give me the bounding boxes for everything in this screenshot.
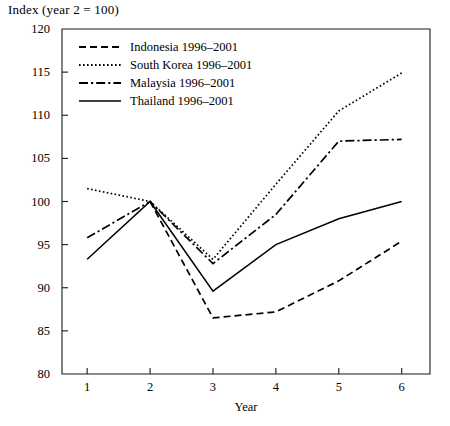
x-axis-tick-label: 5 xyxy=(326,380,352,395)
y-axis-tick-label: 95 xyxy=(16,237,50,252)
legend-label: Malaysia 1996–2001 xyxy=(130,76,235,91)
y-axis-tick-label: 105 xyxy=(16,151,50,166)
legend-item: Thailand 1996–2001 xyxy=(78,92,252,110)
series-line-2 xyxy=(87,139,402,263)
series-line-0 xyxy=(150,202,402,318)
x-axis-tick-label: 3 xyxy=(200,380,226,395)
legend-line-swatch-2 xyxy=(78,77,122,89)
y-axis-tick-label: 115 xyxy=(16,65,50,80)
legend-label: South Korea 1996–2001 xyxy=(130,58,252,73)
y-axis-tick-label: 80 xyxy=(16,367,50,382)
series-line-3 xyxy=(87,202,402,292)
y-axis-tick-label: 100 xyxy=(16,194,50,209)
y-axis-tick-label: 85 xyxy=(16,323,50,338)
legend-label: Thailand 1996–2001 xyxy=(130,94,234,109)
legend-item: Malaysia 1996–2001 xyxy=(78,74,252,92)
chart-legend: Indonesia 1996–2001South Korea 1996–2001… xyxy=(78,38,252,110)
y-axis-tick-label: 110 xyxy=(16,108,50,123)
legend-item: South Korea 1996–2001 xyxy=(78,56,252,74)
x-axis-tick-label: 6 xyxy=(389,380,415,395)
x-axis-tick-label: 1 xyxy=(74,380,100,395)
x-axis-title: Year xyxy=(186,400,306,415)
legend-label: Indonesia 1996–2001 xyxy=(130,40,238,55)
legend-line-swatch-1 xyxy=(78,59,122,71)
legend-item: Indonesia 1996–2001 xyxy=(78,38,252,56)
legend-line-swatch-3 xyxy=(78,95,122,107)
x-axis-tick-label: 2 xyxy=(137,380,163,395)
y-axis-tick-label: 90 xyxy=(16,280,50,295)
y-axis-tick-label: 120 xyxy=(16,22,50,37)
chart-figure: Index (year 2 = 100) 8085909510010511011… xyxy=(0,0,450,426)
x-axis-tick-label: 4 xyxy=(263,380,289,395)
legend-line-swatch-0 xyxy=(78,41,122,53)
